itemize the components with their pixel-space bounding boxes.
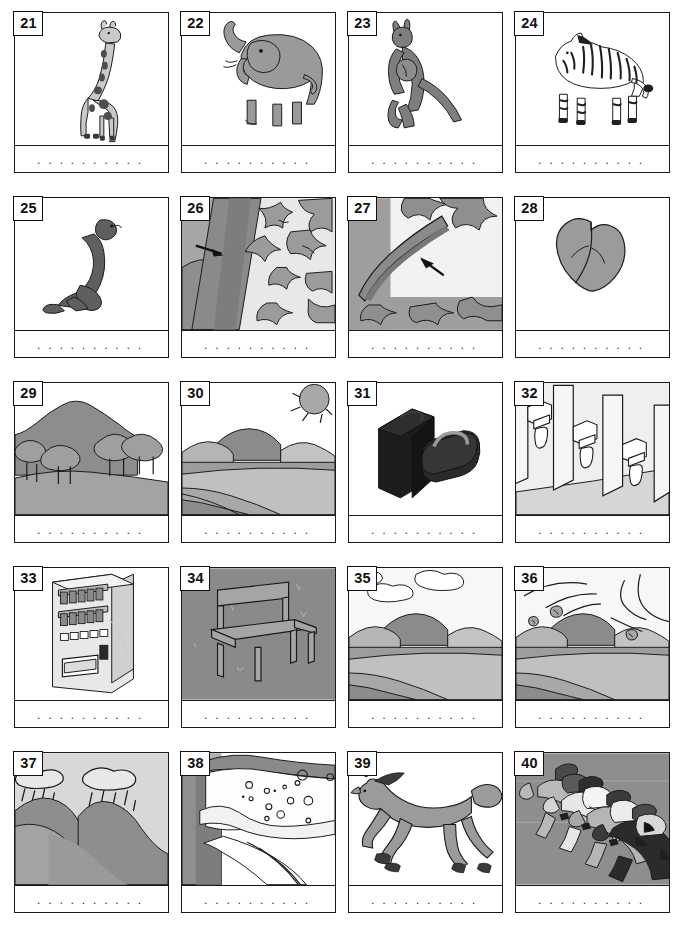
worksheet-card[interactable]: 34 . . . . . . . . . . . . . . . . . . .… bbox=[181, 567, 336, 728]
answer-area[interactable]: . . . . . . . . . . . . . . . . . . . . … bbox=[15, 516, 168, 542]
worksheet-card[interactable]: 22 . . . . . . . . . . . . . . . . . . .… bbox=[181, 12, 336, 173]
answer-dotted-line: . . . . . . . . . . . . . . . . . . . . … bbox=[204, 711, 316, 721]
worksheet-page: 21 . . . . . . . . . . . . . . . . . . .… bbox=[0, 0, 685, 925]
worksheet-card[interactable]: 24 . . . . . . . . . . . . . . . . . . .… bbox=[515, 12, 670, 173]
worksheet-card[interactable]: 38 . . . . . . . . . . . . . . . . . . .… bbox=[181, 752, 336, 913]
answer-dotted-line: . . . . . . . . . . . . . . . . . . . . … bbox=[371, 156, 483, 166]
answer-area[interactable]: . . . . . . . . . . . . . . . . . . . . … bbox=[516, 146, 669, 172]
card-number: 27 bbox=[347, 196, 377, 221]
answer-dotted-line: . . . . . . . . . . . . . . . . . . . . … bbox=[371, 526, 483, 536]
answer-area[interactable]: . . . . . . . . . . . . . . . . . . . . … bbox=[516, 886, 669, 912]
worksheet-card[interactable]: 31 . . . . . . . . . . . . . . . . . . .… bbox=[348, 382, 503, 543]
worksheet-card[interactable]: 26 . . . . . . . . . . . . . . . . . . .… bbox=[181, 197, 336, 358]
answer-dotted-line: . . . . . . . . . . . . . . . . . . . . … bbox=[37, 711, 149, 721]
answer-area[interactable]: . . . . . . . . . . . . . . . . . . . . … bbox=[349, 516, 502, 542]
answer-area[interactable]: . . . . . . . . . . . . . . . . . . . . … bbox=[182, 146, 335, 172]
card-number: 30 bbox=[180, 381, 210, 406]
worksheet-card[interactable]: 35 . . . . . . . . . . . . . . . . . . .… bbox=[348, 567, 503, 728]
worksheet-card[interactable]: 29 . . . . . . . . . . . . . . . . . . .… bbox=[14, 382, 169, 543]
card-number: 24 bbox=[514, 11, 544, 36]
card-number: 34 bbox=[180, 566, 210, 591]
answer-dotted-line: . . . . . . . . . . . . . . . . . . . . … bbox=[204, 896, 316, 906]
worksheet-card[interactable]: 30 . . . . . . . . . . . . . . . . . . .… bbox=[181, 382, 336, 543]
answer-area[interactable]: . . . . . . . . . . . . . . . . . . . . … bbox=[15, 146, 168, 172]
answer-area[interactable]: . . . . . . . . . . . . . . . . . . . . … bbox=[182, 886, 335, 912]
answer-area[interactable]: . . . . . . . . . . . . . . . . . . . . … bbox=[516, 331, 669, 357]
answer-area[interactable]: . . . . . . . . . . . . . . . . . . . . … bbox=[516, 701, 669, 727]
answer-dotted-line: . . . . . . . . . . . . . . . . . . . . … bbox=[538, 156, 650, 166]
worksheet-card[interactable]: 39 . . . . . . . . . . . . . . . . . . .… bbox=[348, 752, 503, 913]
card-grid: 21 . . . . . . . . . . . . . . . . . . .… bbox=[14, 12, 671, 913]
answer-area[interactable]: . . . . . . . . . . . . . . . . . . . . … bbox=[182, 331, 335, 357]
answer-area[interactable]: . . . . . . . . . . . . . . . . . . . . … bbox=[349, 331, 502, 357]
answer-dotted-line: . . . . . . . . . . . . . . . . . . . . … bbox=[371, 896, 483, 906]
answer-area[interactable]: . . . . . . . . . . . . . . . . . . . . … bbox=[182, 701, 335, 727]
answer-dotted-line: . . . . . . . . . . . . . . . . . . . . … bbox=[37, 156, 149, 166]
worksheet-card[interactable]: 25 . . . . . . . . . . . . . . . . . . .… bbox=[14, 197, 169, 358]
answer-dotted-line: . . . . . . . . . . . . . . . . . . . . … bbox=[37, 896, 149, 906]
card-number: 25 bbox=[13, 196, 43, 221]
card-number: 26 bbox=[180, 196, 210, 221]
answer-dotted-line: . . . . . . . . . . . . . . . . . . . . … bbox=[37, 526, 149, 536]
answer-area[interactable]: . . . . . . . . . . . . . . . . . . . . … bbox=[15, 886, 168, 912]
worksheet-card[interactable]: 21 . . . . . . . . . . . . . . . . . . .… bbox=[14, 12, 169, 173]
card-number: 36 bbox=[514, 566, 544, 591]
worksheet-card[interactable]: 23 . . . . . . . . . . . . . . . . . . .… bbox=[348, 12, 503, 173]
answer-dotted-line: . . . . . . . . . . . . . . . . . . . . … bbox=[538, 341, 650, 351]
answer-dotted-line: . . . . . . . . . . . . . . . . . . . . … bbox=[371, 711, 483, 721]
worksheet-card[interactable]: 40 . . . . . . . . . . . . . . . . . . .… bbox=[515, 752, 670, 913]
answer-area[interactable]: . . . . . . . . . . . . . . . . . . . . … bbox=[182, 516, 335, 542]
answer-area[interactable]: . . . . . . . . . . . . . . . . . . . . … bbox=[15, 331, 168, 357]
answer-dotted-line: . . . . . . . . . . . . . . . . . . . . … bbox=[538, 711, 650, 721]
answer-area[interactable]: . . . . . . . . . . . . . . . . . . . . … bbox=[516, 516, 669, 542]
card-number: 32 bbox=[514, 381, 544, 406]
worksheet-card[interactable]: 33 . . . . . . . . . . . . . . . . . . .… bbox=[14, 567, 169, 728]
answer-area[interactable]: . . . . . . . . . . . . . . . . . . . . … bbox=[349, 701, 502, 727]
card-number: 38 bbox=[180, 751, 210, 776]
card-number: 31 bbox=[347, 381, 377, 406]
answer-dotted-line: . . . . . . . . . . . . . . . . . . . . … bbox=[538, 896, 650, 906]
answer-dotted-line: . . . . . . . . . . . . . . . . . . . . … bbox=[204, 341, 316, 351]
answer-dotted-line: . . . . . . . . . . . . . . . . . . . . … bbox=[37, 341, 149, 351]
card-number: 37 bbox=[13, 751, 43, 776]
worksheet-card[interactable]: 37 . . . . . . . . . . . . . . . . . . .… bbox=[14, 752, 169, 913]
card-number: 35 bbox=[347, 566, 377, 591]
card-number: 40 bbox=[514, 751, 544, 776]
answer-dotted-line: . . . . . . . . . . . . . . . . . . . . … bbox=[204, 526, 316, 536]
worksheet-card[interactable]: 28 . . . . . . . . . . . . . . . . . . .… bbox=[515, 197, 670, 358]
card-number: 21 bbox=[13, 11, 43, 36]
card-number: 23 bbox=[347, 11, 377, 36]
card-number: 22 bbox=[180, 11, 210, 36]
answer-area[interactable]: . . . . . . . . . . . . . . . . . . . . … bbox=[15, 701, 168, 727]
answer-dotted-line: . . . . . . . . . . . . . . . . . . . . … bbox=[538, 526, 650, 536]
card-number: 39 bbox=[347, 751, 377, 776]
card-number: 29 bbox=[13, 381, 43, 406]
card-number: 33 bbox=[13, 566, 43, 591]
answer-dotted-line: . . . . . . . . . . . . . . . . . . . . … bbox=[204, 156, 316, 166]
worksheet-card[interactable]: 32 . . . . . . . . . . . . . . . . . . .… bbox=[515, 382, 670, 543]
answer-area[interactable]: . . . . . . . . . . . . . . . . . . . . … bbox=[349, 886, 502, 912]
answer-area[interactable]: . . . . . . . . . . . . . . . . . . . . … bbox=[349, 146, 502, 172]
card-number: 28 bbox=[514, 196, 544, 221]
worksheet-card[interactable]: 27 . . . . . . . . . . . . . . . . . . .… bbox=[348, 197, 503, 358]
answer-dotted-line: . . . . . . . . . . . . . . . . . . . . … bbox=[371, 341, 483, 351]
worksheet-card[interactable]: 36 . . . . . . . . . . . . . . . . . . .… bbox=[515, 567, 670, 728]
